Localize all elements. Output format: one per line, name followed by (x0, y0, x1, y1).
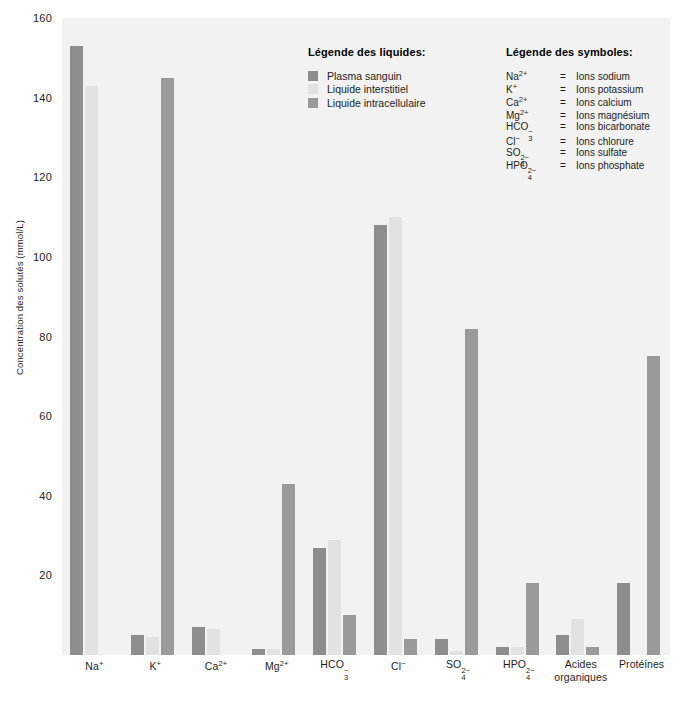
bar-group (252, 18, 313, 655)
x-axis-label-text: Ca2+ (205, 660, 227, 672)
x-axis-label: Mg2+ (244, 658, 309, 673)
symbol-meaning: Ions sodium (576, 71, 681, 82)
bar (282, 484, 295, 655)
symbol-legend-item: Ca2+=Ions calcium (506, 95, 681, 108)
superscript-charge: + (157, 659, 161, 668)
symbol-legend-item: SO2−4=Ions sulfate (506, 147, 681, 160)
x-axis-label-text: Acides (565, 658, 597, 670)
legend-item: Liquide intracellulaire (308, 96, 498, 110)
symbol-legend-item: HCO−3=Ions bicarbonate (506, 121, 681, 134)
bar-group (70, 18, 131, 655)
chart-figure: Concentration des solutés (mmol/L) 16014… (0, 0, 681, 705)
legend-symboles: Légende des symboles: Na2+=Ions sodiumK+… (506, 46, 681, 173)
plot-area: Légende des liquides: Plasma sanguinLiqu… (62, 18, 670, 655)
symbol-meaning: Ions potassium (576, 84, 681, 95)
superscript-charge: 2+ (280, 659, 289, 668)
legend-symboles-items: Na2+=Ions sodiumK+=Ions potassiumCa2+=Io… (506, 69, 681, 173)
x-axis-label: Protéines (609, 658, 674, 671)
symbol-formula: Na2+ (506, 69, 560, 82)
symbol-formula: K+ (506, 82, 560, 95)
legend-swatch-icon (308, 71, 318, 81)
x-axis-label-text: HPO2−4 (503, 658, 537, 670)
superscript-charge: + (513, 82, 517, 91)
legend-symboles-title: Légende des symboles: (506, 46, 681, 58)
y-axis-tick: 120 (14, 171, 52, 183)
y-axis-tick: 140 (14, 92, 52, 104)
bar (617, 583, 630, 655)
x-axis-label-text: SO2−4 (446, 658, 472, 670)
bar-group (313, 18, 374, 655)
symbol-legend-item: K+=Ions potassium (506, 82, 681, 95)
x-axis-label-text: Protéines (619, 658, 664, 670)
y-axis-tick: 20 (14, 569, 52, 581)
bar (267, 649, 280, 655)
bar-group (374, 18, 435, 655)
y-axis-tick: 40 (14, 490, 52, 502)
symbol-formula: HPO2−4 (506, 160, 560, 171)
equals-sign: = (560, 147, 576, 158)
x-axis-label: HCO−3 (305, 658, 370, 671)
x-axis-label: Na+ (62, 658, 127, 673)
x-axis-label-text: Mg2+ (265, 660, 289, 672)
bar (465, 329, 478, 655)
subscript-count: 3 (344, 672, 348, 685)
x-axis-label: SO2−4 (427, 658, 492, 671)
bar (161, 78, 174, 655)
y-axis-tick: 160 (14, 12, 52, 24)
equals-sign: = (560, 110, 576, 121)
bar (496, 647, 509, 655)
x-axis-label-line2: organiques (554, 671, 607, 683)
bar-group (131, 18, 192, 655)
bar (328, 540, 341, 655)
legend-item: Liquide interstitiel (308, 83, 498, 97)
bar (526, 583, 539, 655)
bar (343, 615, 356, 655)
legend-liquides-items: Plasma sanguinLiquide interstitielLiquid… (308, 69, 498, 110)
y-axis-tick: 100 (14, 251, 52, 263)
symbol-meaning: Ions chlorure (576, 136, 681, 147)
equals-sign: = (560, 97, 576, 108)
symbol-meaning: Ions bicarbonate (576, 121, 681, 132)
legend-item: Plasma sanguin (308, 69, 498, 83)
y-axis-tick: 60 (14, 410, 52, 422)
symbol-meaning: Ions sulfate (576, 147, 681, 158)
x-axis-label-text: Cl− (391, 660, 406, 672)
superscript-charge: − (401, 659, 405, 668)
x-axis-label: HPO2−4 (488, 658, 553, 671)
symbol-legend-item: HPO2−4=Ions phosphate (506, 160, 681, 173)
bar (131, 635, 144, 655)
x-axis-labels: Na+K+Ca2+Mg2+HCO−3Cl−SO2−4HPO2−4Acidesor… (62, 658, 670, 704)
symbol-meaning: Ions phosphate (576, 160, 681, 171)
symbol-formula: Cl− (506, 134, 560, 147)
legend-swatch-icon (308, 84, 318, 94)
bar (192, 627, 205, 655)
equals-sign: = (560, 71, 576, 82)
bar (404, 639, 417, 655)
legend-swatch-icon (308, 98, 318, 108)
x-axis-label: Ca2+ (184, 658, 249, 673)
subscript-count: 4 (526, 672, 530, 685)
bar (571, 619, 584, 655)
symbol-meaning: Ions magnésium (576, 110, 681, 121)
x-axis-label: K+ (123, 658, 188, 673)
bar (85, 86, 98, 655)
bar (647, 356, 660, 655)
symbol-formula: Ca2+ (506, 95, 560, 108)
x-axis-label-text: Na+ (85, 660, 103, 672)
bar (70, 46, 83, 655)
legend-item-label: Liquide interstitiel (327, 83, 408, 95)
symbol-legend-item: Mg2+=Ions magnésium (506, 108, 681, 121)
bar-group (192, 18, 253, 655)
symbol-legend-item: Na2+=Ions sodium (506, 69, 681, 82)
bar (313, 548, 326, 655)
legend-liquides-title: Légende des liquides: (308, 46, 498, 58)
legend-item-label: Plasma sanguin (327, 70, 402, 82)
bar (450, 651, 463, 655)
subscript-count: 4 (461, 672, 465, 685)
x-axis-label: Acidesorganiques (548, 658, 613, 683)
bar (374, 225, 387, 655)
equals-sign: = (560, 121, 576, 132)
bar-group (435, 18, 496, 655)
y-axis-ticks: 16014012010080604020 (14, 0, 52, 705)
equals-sign: = (560, 84, 576, 95)
